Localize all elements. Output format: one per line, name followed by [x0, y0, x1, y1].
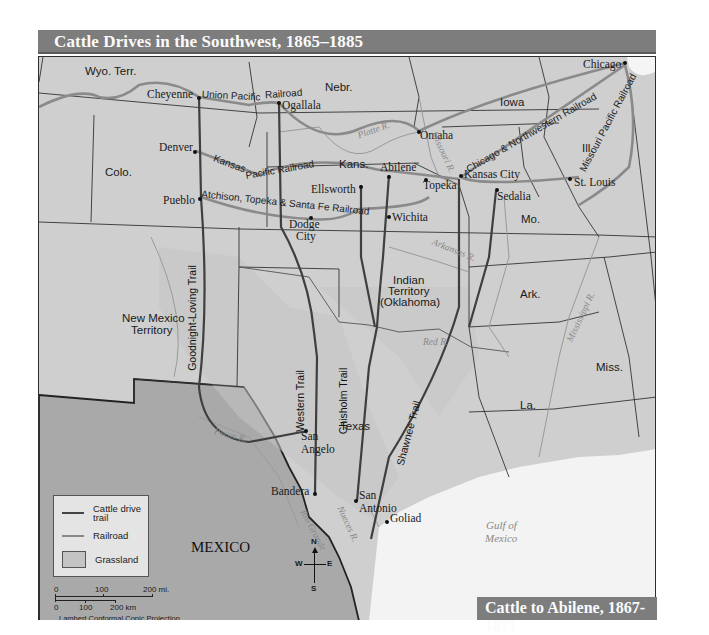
gulf-label-1: Gulf of [486, 519, 517, 531]
map-legend: Cattle drive trail Railroad Grassland [53, 495, 149, 577]
state-la: La. [520, 399, 536, 411]
san-antonio-dot [354, 499, 358, 503]
city-cheyenne: Cheyenne [147, 88, 193, 100]
river-red: Red R. [423, 337, 448, 347]
st-louis-dot [568, 177, 572, 181]
legend-grassland-label: Grassland [95, 555, 138, 564]
city-chicago: Chicago [583, 58, 621, 70]
ellsworth-dot [359, 185, 363, 189]
legend-item-grassland: Grassland [62, 551, 138, 568]
scale-km-0: 0 [54, 603, 58, 612]
bandera-dot [313, 492, 317, 496]
scale-bar: 0 100 200 mi. 0 100 200 km Lambert Confo… [51, 585, 171, 620]
railroad-swatch [62, 535, 84, 537]
city-san-angelo-2: Angelo [301, 443, 335, 455]
map-title-bar: Cattle Drives in the Southwest, 1865–188… [38, 30, 656, 54]
cheyenne-dot [197, 96, 201, 100]
legend-item-railroad: Railroad [62, 531, 128, 540]
state-iowa: Iowa [500, 96, 524, 108]
abilene-dot [387, 175, 391, 179]
city-bandera: Bandera [271, 485, 309, 497]
state-ark: Ark. [520, 288, 540, 300]
map-area: Cheyenne Ogallala Omaha Chicago Denver E… [38, 56, 656, 620]
city-sedalia: Sedalia [497, 190, 531, 202]
trail-chisholm: Chisholm Trail [337, 368, 349, 435]
city-wichita: Wichita [392, 211, 428, 223]
wichita-dot [387, 215, 391, 219]
city-goliad: Goliad [390, 512, 421, 524]
kansas-city-dot [459, 174, 463, 178]
state-indian-3: (Oklahoma) [380, 296, 440, 308]
chicago-dot [623, 61, 627, 65]
grassland-swatch [62, 551, 86, 568]
ogallala-dot [277, 101, 281, 105]
inset-title: Cattle to Abilene, 1867-1871 [485, 599, 657, 635]
map-title: Cattle Drives in the Southwest, 1865–188… [54, 32, 363, 52]
state-mo: Mo. [521, 213, 540, 225]
legend-trail-label: Cattle drive trail [93, 504, 143, 522]
scale-mi-100: 100 [95, 585, 108, 594]
city-ellsworth: Ellsworth [311, 183, 356, 195]
goliad-dot [385, 520, 389, 524]
state-mexico: MEXICO [191, 539, 250, 556]
state-miss: Miss. [596, 361, 623, 373]
state-colo: Colo. [105, 166, 132, 178]
compass-rose-icon: N W E S [295, 537, 335, 597]
legend-item-trail: Cattle drive trail [62, 504, 143, 522]
state-wyo: Wyo. Terr. [85, 65, 136, 77]
scale-km-200: 200 km [110, 603, 136, 612]
city-st-louis: St. Louis [574, 176, 616, 188]
legend-railroad-label: Railroad [93, 531, 128, 540]
trail-western: Western Trail [294, 370, 306, 432]
scale-km-100: 100 [79, 603, 92, 612]
trail-goodnight-loving: Goodnight-Loving Trail [186, 265, 198, 371]
state-nebr: Nebr. [325, 81, 353, 93]
city-denver: Denver [159, 141, 193, 153]
compass-s: S [311, 584, 316, 593]
city-ogallala: Ogallala [282, 99, 321, 111]
scale-mi-0: 0 [54, 585, 58, 594]
city-san-antonio-1: San [359, 489, 376, 501]
city-dodge-1: Dodge [289, 218, 320, 230]
city-pueblo: Pueblo [163, 194, 195, 206]
state-nm-2: Territory [131, 324, 173, 336]
trail-swatch [62, 512, 84, 514]
compass-n: N [311, 537, 317, 546]
scale-projection: Lambert Conformal Conic Projection [59, 614, 180, 620]
denver-dot [193, 150, 197, 154]
state-nm-1: New Mexico [122, 312, 185, 324]
scale-mi-200: 200 mi. [143, 585, 169, 594]
inset-title-bar: Cattle to Abilene, 1867-1871 [477, 597, 657, 620]
city-topeka: Topeka [423, 179, 457, 191]
state-kans: Kans. [339, 158, 368, 170]
city-abilene: Abilene [380, 161, 416, 173]
compass-w: W [295, 559, 303, 568]
compass-e: E [327, 559, 332, 568]
gulf-label-2: Mexico [485, 532, 517, 544]
city-dodge-2: City [296, 230, 316, 242]
